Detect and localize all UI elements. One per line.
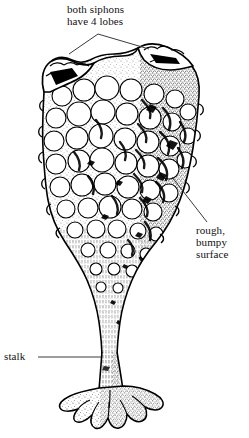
label-both-siphons: both siphons have 4 lobes <box>67 3 124 27</box>
leader-siphon-right <box>98 34 149 49</box>
label-stalk-line1: stalk <box>4 350 25 362</box>
holdfast <box>50 380 175 435</box>
label-rough-bumpy-surface: rough, bumpy surface <box>196 224 228 260</box>
sea-squirt-drawing <box>0 0 249 438</box>
label-surface-line1: rough, <box>196 224 228 236</box>
label-stalk: stalk <box>4 350 25 362</box>
label-surface-line3: surface <box>196 248 228 260</box>
sea-squirt-figure: both siphons have 4 lobes rough, bumpy s… <box>0 0 249 438</box>
label-siphons-line2: have 4 lobes <box>67 15 124 27</box>
label-siphons-line1: both siphons <box>67 3 124 15</box>
sea-squirt-body <box>30 40 220 435</box>
leader-siphon-left <box>69 34 98 54</box>
label-surface-line2: bumpy <box>196 236 228 248</box>
